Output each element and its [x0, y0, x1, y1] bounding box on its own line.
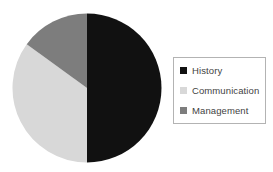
- pie-slice-group: [12, 14, 161, 163]
- legend-item-management[interactable]: Management: [180, 103, 265, 117]
- legend-label-management: Management: [192, 105, 248, 116]
- legend-swatch-icon-history: [180, 67, 187, 74]
- legend-item-communication[interactable]: Communication: [180, 83, 265, 97]
- legend-swatch-icon-communication: [180, 87, 187, 94]
- legend-label-history: History: [192, 65, 222, 76]
- legend-item-list: History Communication Management: [174, 58, 265, 123]
- legend-item-history[interactable]: History: [180, 64, 265, 78]
- legend-swatch-icon-management: [180, 107, 187, 114]
- legend: History Communication Management: [173, 57, 266, 124]
- pie-chart-figure: History Communication Management: [0, 0, 273, 172]
- pie-slice-history[interactable]: [87, 14, 162, 163]
- pie-chart-svg: [12, 13, 162, 163]
- pie-chart-plot-area: [12, 13, 162, 163]
- legend-label-communication: Communication: [192, 85, 259, 96]
